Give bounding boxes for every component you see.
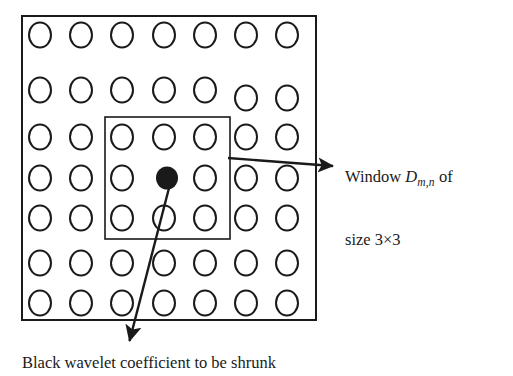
coefficient-circle — [29, 23, 51, 48]
coefficient-circle — [153, 125, 175, 150]
window-annotation-line1: Window Dm,n of — [345, 167, 513, 189]
coefficient-circle — [153, 291, 175, 316]
coefficient-circle — [235, 86, 257, 111]
coefficient-circle — [276, 125, 298, 150]
coefficient-circle — [70, 291, 92, 316]
coefficient-circle — [276, 86, 298, 111]
coefficient-circle — [194, 291, 216, 316]
window-variable-subscript: m,n — [417, 177, 435, 189]
coefficient-circle — [276, 206, 298, 231]
window-annotation-label: Window Dm,n of size 3×3 — [345, 127, 513, 290]
coefficient-circle — [153, 251, 175, 276]
coefficient-circle — [276, 251, 298, 276]
coefficient-circle — [194, 206, 216, 231]
coefficient-circle — [235, 291, 257, 316]
coefficient-circle — [111, 291, 133, 316]
black-coefficient-caption: Black wavelet coefficient to be shrunk — [22, 353, 276, 373]
coefficient-circle — [111, 206, 133, 231]
figure-root: Window Dm,n of size 3×3 Black wavelet co… — [0, 0, 513, 376]
coefficient-circle — [276, 23, 298, 48]
coefficient-circle — [111, 78, 133, 103]
coefficient-circle — [70, 206, 92, 231]
coefficient-circle — [29, 78, 51, 103]
window-annotation-suffix: of — [435, 167, 453, 186]
coefficient-circle — [111, 251, 133, 276]
coefficient-circle — [235, 23, 257, 48]
coefficient-circle — [194, 125, 216, 150]
coefficient-circle — [235, 206, 257, 231]
coefficient-callout-arrow — [130, 188, 170, 341]
coefficient-circle — [194, 78, 216, 103]
coefficient-circle — [29, 291, 51, 316]
coefficient-circle — [70, 166, 92, 191]
coefficient-circle — [153, 78, 175, 103]
coefficient-circle — [235, 251, 257, 276]
coefficient-circle — [235, 125, 257, 150]
coefficient-circle — [276, 291, 298, 316]
coefficient-circle — [111, 125, 133, 150]
window-annotation-line2: size 3×3 — [345, 230, 513, 250]
window-annotation-prefix: Window — [345, 167, 405, 186]
coefficient-circle — [29, 251, 51, 276]
coefficient-circle — [70, 125, 92, 150]
coefficient-circle — [235, 166, 257, 191]
coefficient-circle — [70, 251, 92, 276]
coefficient-circle — [194, 23, 216, 48]
coefficient-circle — [194, 166, 216, 191]
coefficient-circle — [70, 23, 92, 48]
coefficient-circle — [111, 166, 133, 191]
window-variable-D: D — [405, 167, 417, 186]
coefficient-circle — [70, 78, 92, 103]
black-wavelet-coefficient — [156, 167, 178, 190]
coefficient-circle — [29, 125, 51, 150]
coefficient-circle — [194, 251, 216, 276]
coefficient-circle — [153, 23, 175, 48]
coefficient-circle — [29, 206, 51, 231]
coefficient-circle — [276, 166, 298, 191]
coefficient-circle — [29, 166, 51, 191]
coefficient-circle — [111, 23, 133, 48]
